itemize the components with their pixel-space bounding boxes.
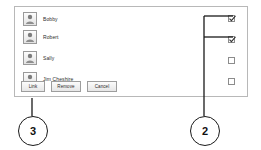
callout-2: 2 bbox=[190, 116, 220, 146]
list-item[interactable]: Bobby bbox=[21, 10, 243, 28]
user-checkbox[interactable] bbox=[228, 36, 235, 43]
remove-button[interactable]: Remove bbox=[51, 81, 81, 92]
checkmark-icon bbox=[228, 14, 237, 23]
checkmark-icon bbox=[228, 35, 237, 44]
list-item[interactable]: Robert bbox=[21, 28, 243, 46]
user-icon bbox=[23, 12, 37, 26]
user-checkbox[interactable] bbox=[228, 15, 235, 22]
user-name: Bobby bbox=[43, 15, 58, 23]
user-name: Sally bbox=[43, 54, 54, 62]
callout-label: 2 bbox=[202, 125, 208, 137]
callout-3: 3 bbox=[18, 116, 48, 146]
cancel-button[interactable]: Cancel bbox=[87, 81, 117, 92]
user-checkbox[interactable] bbox=[228, 78, 235, 85]
user-icon bbox=[23, 51, 37, 65]
screenshot-root: Bobby Robert bbox=[0, 0, 261, 150]
user-list: Bobby Robert bbox=[15, 7, 247, 83]
list-item[interactable]: Sally bbox=[21, 49, 243, 67]
user-permission-panel: Bobby Robert bbox=[14, 6, 248, 97]
callout-label: 3 bbox=[30, 125, 36, 137]
user-name: Robert bbox=[43, 33, 59, 41]
user-checkbox[interactable] bbox=[228, 57, 235, 64]
user-icon bbox=[23, 30, 37, 44]
dialog-button-bar: Link Remove Cancel bbox=[21, 80, 117, 92]
link-button[interactable]: Link bbox=[21, 81, 45, 92]
